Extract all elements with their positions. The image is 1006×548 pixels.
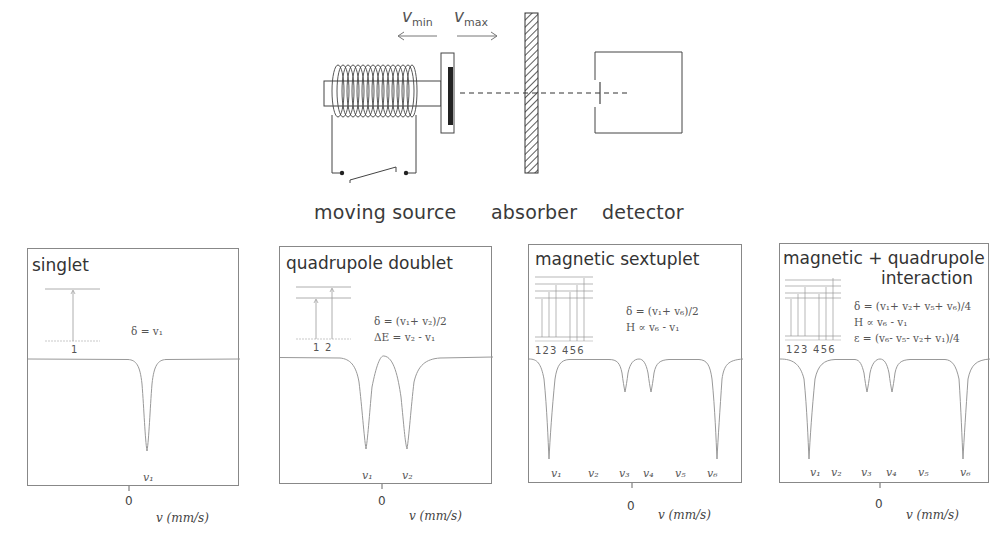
radioactive-source	[448, 67, 453, 125]
absorber-plate	[525, 13, 538, 173]
panel-magnetic-quadrupole: magnetic + quadrupole interaction 123 45…	[779, 243, 989, 483]
zero-tick	[631, 483, 633, 489]
formula-quadrupole-shift: ε = (v₆- v₅- v₂+ v₁)/4	[854, 332, 960, 344]
circuit-wires	[332, 115, 416, 183]
panel-title-line1: magnetic + quadrupole	[783, 248, 985, 268]
zero-tick	[381, 484, 383, 490]
peak-label-v1: v₁	[143, 471, 154, 484]
panel-title: magnetic sextuplet	[535, 249, 699, 269]
panel-quadrupole-doublet: quadrupole doublet 1 2 δ = (v₁+ v₂)/2 ΔE…	[279, 246, 492, 484]
formula-hyperfine-field: H ∝ v₆ - v₁	[854, 316, 907, 328]
switch	[350, 167, 396, 183]
label-detector: detector	[602, 201, 684, 223]
label-absorber: absorber	[491, 201, 577, 223]
peak-label-v2: v₂	[402, 469, 413, 482]
peak-label-v6: v₆	[707, 467, 718, 480]
formula-isomer-shift: δ = v₁	[131, 325, 163, 337]
v-max-label: vmax	[454, 6, 488, 29]
energy-level-diagram	[45, 289, 135, 349]
zero-tick-label: 0	[875, 497, 883, 511]
transition-numbers: 1	[71, 344, 79, 355]
v-min-label: vmin	[402, 6, 433, 29]
zero-tick	[128, 486, 130, 492]
transition-numbers: 123 456	[786, 344, 836, 355]
peak-label-v4: v₄	[886, 466, 897, 479]
peak-label-v1: v₁	[362, 469, 373, 482]
axis-label-velocity: v (mm/s)	[156, 511, 209, 525]
axis-label-velocity: v (mm/s)	[906, 508, 959, 522]
label-moving-source: moving source	[314, 201, 457, 223]
panel-singlet: singlet 1 δ = v₁ v₁	[27, 248, 239, 486]
transition-numbers: 123 456	[535, 345, 585, 356]
spectrum-sextuplet	[529, 359, 743, 484]
peak-label-v5: v₅	[675, 467, 686, 480]
transition-numbers: 1 2	[313, 342, 333, 353]
zero-tick	[879, 483, 881, 489]
velocity-arrows	[398, 32, 497, 40]
spectrum-singlet	[28, 359, 240, 484]
formula-quadrupole-splitting: ΔE = v₂ - v₁	[374, 331, 435, 343]
formula-isomer-shift: δ = (v₁+ v₂+ v₅+ v₆)/4	[854, 300, 971, 312]
peak-label-v2: v₂	[831, 466, 842, 479]
zero-tick-label: 0	[627, 499, 635, 513]
peak-label-v2: v₂	[588, 467, 599, 480]
axis-label-velocity: v (mm/s)	[409, 509, 462, 523]
formula-hyperfine-field: H ∝ v₆ - v₁	[626, 321, 679, 333]
peak-label-v1: v₁	[551, 467, 562, 480]
peak-label-v3: v₃	[619, 467, 630, 480]
energy-level-diagram	[785, 280, 855, 350]
panel-magnetic-sextuplet: magnetic sextuplet 123 456 δ = (v₁+ v₆)/…	[528, 244, 742, 483]
peak-label-v6: v₆	[960, 466, 971, 479]
peak-label-v3: v₃	[861, 466, 872, 479]
panel-title: singlet	[32, 255, 89, 275]
spectrum-doublet	[280, 357, 493, 482]
panel-title-line2: interaction	[881, 268, 973, 288]
axis-label-velocity: v (mm/s)	[658, 508, 711, 522]
formula-isomer-shift: δ = (v₁+ v₆)/2	[626, 305, 699, 317]
peak-label-v1: v₁	[810, 466, 821, 479]
peak-label-v5: v₅	[918, 466, 929, 479]
zero-tick-label: 0	[378, 494, 386, 508]
zero-tick-label: 0	[125, 494, 133, 508]
energy-level-diagram	[296, 287, 386, 347]
peak-label-v4: v₄	[643, 467, 654, 480]
panel-title: quadrupole doublet	[286, 253, 453, 273]
energy-level-diagram	[535, 277, 605, 347]
formula-isomer-shift: δ = (v₁+ v₂)/2	[374, 315, 447, 327]
